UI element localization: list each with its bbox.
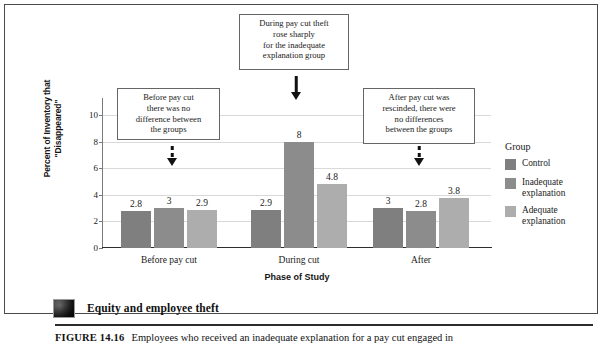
annotation-line: no differences — [368, 114, 470, 125]
y-axis-tick-mark — [99, 142, 103, 143]
figure-caption: FIGURE 14.16Employees who received an in… — [55, 331, 600, 344]
legend-swatch-icon — [505, 178, 516, 189]
y-axis-tick-mark — [99, 221, 103, 222]
legend-label: Inadequateexplanation — [522, 177, 565, 198]
legend-title: Group — [505, 141, 601, 152]
bar-slot: 8 — [284, 102, 314, 248]
annotation-before-pay-cut: Before pay cutthere was nodifference bet… — [117, 88, 220, 140]
legend-item-1[interactable]: Control — [505, 158, 601, 170]
annotation-arrow-after-icon — [409, 146, 429, 174]
annotation-line: for the inadequate — [244, 40, 344, 51]
y-axis-tick-label: 2 — [94, 216, 99, 226]
bar: 8 — [284, 142, 314, 248]
legend-items: ControlInadequateexplanationAdequateexpl… — [505, 158, 601, 226]
y-axis-tick-label: 6 — [94, 163, 99, 173]
annotation-line: between the groups — [368, 124, 470, 135]
figure-caption-text: Employees who received an inadequate exp… — [132, 332, 454, 343]
x-axis-tick-label: Before pay cut — [141, 255, 197, 265]
bar: 2.8 — [121, 211, 151, 248]
bar-value-label: 3 — [167, 196, 172, 206]
photo-caption: Equity and employee theft — [87, 302, 219, 314]
x-axis-tick-label: During cut — [279, 255, 320, 265]
legend: Group ControlInadequateexplanationAdequa… — [505, 141, 601, 233]
bar: 2.9 — [187, 210, 217, 248]
bar-value-label: 3.8 — [448, 186, 460, 196]
bar-value-label: 4.8 — [326, 172, 338, 182]
bar-value-label: 2.9 — [196, 198, 208, 208]
caption-divider — [55, 324, 593, 326]
x-axis-tick-label: After — [411, 255, 431, 265]
annotation-arrow-during-icon — [286, 76, 306, 106]
annotation-line: the groups — [122, 124, 215, 135]
annotation-line: difference between — [122, 114, 215, 125]
bar-value-label: 3 — [386, 196, 391, 206]
y-axis-tick-label: 10 — [89, 110, 98, 120]
gridline — [103, 248, 491, 249]
bar-slot: 4.8 — [317, 102, 347, 248]
bar: 3.8 — [439, 198, 469, 248]
annotation-arrow-before-icon — [162, 146, 182, 174]
legend-item-3[interactable]: Adequateexplanation — [505, 205, 601, 226]
legend-swatch-icon — [505, 159, 516, 170]
figure-number: FIGURE 14.16 — [55, 332, 125, 343]
annotation-during-pay-cut: During pay cut theftrose sharplyfor the … — [239, 14, 349, 70]
photo-thumbnail — [53, 299, 75, 318]
bar-value-label: 2.8 — [130, 199, 142, 209]
y-axis-title: Percent of Inventory that "Disappeared" — [42, 59, 63, 199]
bar-value-label: 2.9 — [260, 198, 272, 208]
annotation-line: During pay cut theft — [244, 18, 344, 29]
bar-value-label: 8 — [297, 130, 302, 140]
annotation-line: rose sharply — [244, 29, 344, 40]
annotation-after-pay-cut: After pay cut wasrescinded, there wereno… — [363, 88, 475, 144]
annotation-line: explanation group — [244, 50, 344, 61]
annotation-line: After pay cut was — [368, 92, 470, 103]
annotation-line: Before pay cut — [122, 92, 215, 103]
legend-label: Control — [522, 158, 550, 169]
y-axis-tick-mark — [99, 115, 103, 116]
y-axis-tick-label: 0 — [94, 243, 99, 253]
bar-value-label: 2.8 — [415, 199, 427, 209]
bar: 3 — [154, 208, 184, 248]
y-axis-tick-label: 8 — [94, 137, 99, 147]
bar-chart: Percent of Inventory that "Disappeared" … — [0, 0, 606, 290]
bar-group: 2.984.8During cut — [247, 102, 351, 248]
y-axis-tick-mark — [99, 248, 103, 249]
legend-label: Adequateexplanation — [522, 205, 565, 226]
annotation-line: there was no — [122, 103, 215, 114]
x-axis-title: Phase of Study — [103, 272, 491, 282]
y-axis-tick-label: 4 — [94, 190, 99, 200]
legend-swatch-icon — [505, 206, 516, 217]
bar: 2.8 — [406, 211, 436, 248]
y-axis-tick-mark — [99, 168, 103, 169]
bar-slot: 2.9 — [251, 102, 281, 248]
bar: 3 — [373, 208, 403, 248]
annotation-line: rescinded, there were — [368, 103, 470, 114]
y-axis-tick-mark — [99, 195, 103, 196]
bar: 4.8 — [317, 184, 347, 248]
legend-item-2[interactable]: Inadequateexplanation — [505, 177, 601, 198]
bar: 2.9 — [251, 210, 281, 248]
